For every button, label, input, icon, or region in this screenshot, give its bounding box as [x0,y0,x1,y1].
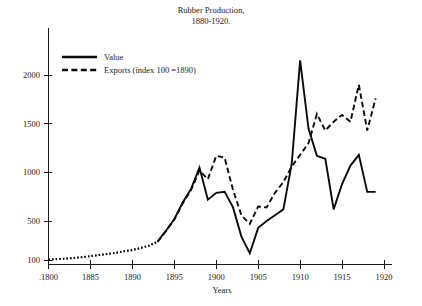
y-tick-label: 100 [27,255,40,265]
chart-container: Rubber Production, 1880-1920. Value Expo… [0,0,422,306]
legend-label-value: Value [104,52,124,62]
x-tick-label: .1800 [39,272,58,282]
x-tick-label: 1915 [334,272,351,282]
chart-subtitle: 1880-1920. [192,16,231,26]
x-tick-label: 1920 [376,272,393,282]
chart-title: Rubber Production, [178,5,245,15]
chart-series-group [49,60,376,259]
legend-label-exports: Exports (index 100 =1890) [104,65,196,75]
x-tick-label: 1895 [166,272,183,282]
y-tick-label: 1500 [23,119,40,129]
chart-legend: Value Exports (index 100 =1890) [62,52,196,75]
y-tick-label: 2000 [23,70,40,80]
x-tick-label: 1900 [208,272,225,282]
series-line-value [158,60,376,253]
x-tick-label: 1885 [82,272,99,282]
y-tick-label: 1000 [23,167,40,177]
x-axis-label: Years [213,285,232,295]
x-tick-label: 1905 [250,272,267,282]
y-tick-label: 500 [27,216,40,226]
y-axis-ticks: 100500100015002000 [23,70,52,265]
rubber-production-line-chart: Rubber Production, 1880-1920. Value Expo… [0,0,422,306]
x-tick-label: 1910 [292,272,309,282]
x-axis-ticks: .180018851890189519001905191019151920 [39,260,393,282]
series-line-exports [158,85,376,242]
series-lead-in-exports [49,242,158,260]
chart-axes [49,28,393,265]
x-tick-label: 1890 [124,272,141,282]
series-lead-in-value [49,242,158,260]
